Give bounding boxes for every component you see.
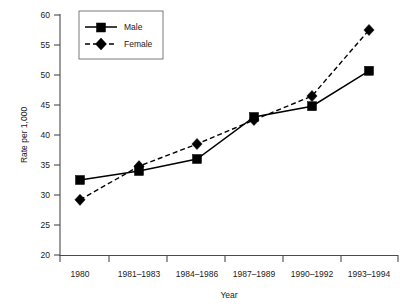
x-axis-title: Year: [220, 290, 237, 300]
x-tick-label: 1980: [71, 269, 90, 279]
line-chart: 60 55 50 45 40 35 30 25 20 1980 1981–198…: [0, 0, 412, 306]
y-tick-label: 45: [41, 100, 51, 110]
y-tick-labels: 60 55 50 45 40 35 30 25 20: [41, 10, 51, 260]
x-tick-label: 1993–1994: [348, 269, 391, 279]
y-tick-label: 50: [41, 70, 51, 80]
x-tick-label: 1984–1986: [176, 269, 219, 279]
male-markers: [76, 66, 374, 184]
series-male-group: [76, 66, 374, 184]
y-tick-label: 35: [41, 160, 51, 170]
y-axis-title: Rate per 1,000: [19, 107, 29, 164]
data-point-marker: [135, 167, 144, 176]
y-tick-label: 55: [41, 40, 51, 50]
data-point-marker: [192, 138, 202, 149]
y-tick-label: 25: [41, 220, 51, 230]
data-point-marker: [75, 194, 85, 205]
y-tick-label: 20: [41, 250, 51, 260]
x-tick-label: 1990–1992: [291, 269, 334, 279]
legend-label-male: Male: [124, 22, 143, 32]
y-tick-label: 40: [41, 130, 51, 140]
x-tick-label: 1987–1989: [233, 269, 276, 279]
data-point-marker: [76, 176, 85, 185]
male-series-line: [80, 71, 369, 180]
legend-label-female: Female: [124, 39, 153, 49]
data-point-marker: [250, 113, 259, 122]
data-point-marker: [193, 155, 202, 164]
y-tick-marks: [54, 15, 60, 255]
legend: Male Female: [79, 11, 163, 59]
legend-box: [79, 11, 163, 59]
chart-container: 60 55 50 45 40 35 30 25 20 1980 1981–198…: [0, 0, 412, 306]
data-point-marker: [365, 66, 374, 75]
legend-male-marker-square-icon: [97, 23, 106, 32]
y-tick-label: 30: [41, 190, 51, 200]
x-tick-labels: 1980 1981–1983 1984–1986 1987–1989 1990–…: [71, 269, 391, 279]
y-tick-label: 60: [41, 10, 51, 20]
x-tick-label: 1981–1983: [118, 269, 161, 279]
data-point-marker: [308, 102, 317, 111]
